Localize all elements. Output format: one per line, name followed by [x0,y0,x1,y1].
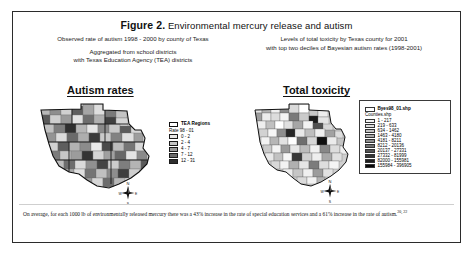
left-subtitle-line2: Aggregated from school districts [25,48,241,56]
caption-divider [19,204,454,205]
legend-swatch-rate-4-7 [169,147,178,152]
right-subtitle-line1: Levels of total toxicity by Texas county… [237,35,451,44]
svg-text:W: W [321,190,325,194]
svg-text:W: W [119,192,123,196]
svg-text:E: E [337,190,340,194]
legend-label-rate-4-7: 4 - 7 [181,147,190,152]
figure-frame: Figure 2. Environmental mercury release … [12,11,461,243]
figure-title-text: Environmental mercury release and autism [168,20,353,31]
legend-swatch-rate-7-12 [169,153,178,158]
figure-caption: On average, for each 1000 lb of environm… [23,208,451,218]
legend-label-counties-layer: Counties.shp [365,113,451,118]
left-subtitle-line3: with Texas Education Agency (TEA) distri… [25,56,241,64]
legend-swatch-tox-10 [365,164,375,169]
legend-row-tea-regions: TEA Regions [169,122,235,128]
caption-text: On average, for each 1000 lb of environm… [23,211,397,217]
legend-swatch-rate-2-4 [169,141,178,146]
left-panel-subtitle: Observed rate of autism 1998 - 2000 by c… [25,35,241,64]
panel-autism-rates: Autism rates [21,84,239,202]
texas-choropleth-toxicity [241,100,359,190]
figure-title: Figure 2. Environmental mercury release … [13,19,460,31]
legend-swatch-rate-0-2 [169,134,178,139]
legend-row-rate-class: 0 - 2 [169,134,235,140]
legend-autism-rates: TEA Regions Rate 98 - 01 0 - 2 2 - 4 4 -… [169,122,235,165]
legend-swatch-tox-4 [365,134,375,139]
compass-rose-right: N W E S [319,178,341,204]
svg-text:N: N [127,181,130,186]
right-subtitle-line2: with top two deciles of Bayesian autism … [237,44,451,53]
legend-swatch-tox-2 [365,124,375,129]
legend-label-tea-regions: TEA Regions [181,122,210,127]
panel-total-toxicity: Total toxicity [241,84,453,202]
legend-total-toxicity: Byes98_01.shp Counties.shp 1 - 217 219 -… [361,104,451,169]
legend-row-rate-class: 12 - 31 [169,159,235,165]
legend-row-rate-class: 4 - 7 [169,146,235,152]
legend-row-toxicity-class: 155984 - 396905 [365,164,451,169]
legend-label-rate-12-31: 12 - 31 [181,159,195,164]
legend-label-rate: Rate 98 - 01 [169,129,235,134]
left-subtitle-line1: Observed rate of autism 1998 - 2000 by c… [25,35,241,43]
right-panel-subtitle: Levels of total toxicity by Texas county… [237,35,451,52]
legend-swatch-tox-9 [365,159,375,164]
panel-heading-toxicity: Total toxicity [283,84,350,96]
legend-swatch-tox-1 [365,119,375,124]
panel-heading-autism: Autism rates [67,84,134,96]
caption-references: 20, 22 [397,209,407,214]
map-texas-total-toxicity [241,100,359,190]
legend-swatch-tox-8 [365,154,375,159]
map-texas-autism-rates [23,100,163,192]
compass-icon: N W E S [319,178,341,204]
svg-text:N: N [329,179,332,184]
compass-icon: N W E S [117,180,139,206]
legend-label-tox-10: 155984 - 396905 [378,164,412,169]
legend-swatch-rate-12-31 [169,159,178,164]
legend-row-rate-class: 2 - 4 [169,140,235,146]
legend-label-rate-2-4: 2 - 4 [181,141,190,146]
legend-swatch-tea-regions [169,122,178,127]
legend-label-rate-7-12: 7 - 12 [181,153,193,158]
texas-choropleth-autism [23,100,163,192]
legend-row-rate-class: 7 - 12 [169,153,235,159]
figure-label: Figure 2. [120,19,165,31]
svg-text:E: E [135,192,138,196]
legend-swatch-tox-5 [365,139,375,144]
legend-label-rate-0-2: 0 - 2 [181,135,190,140]
compass-rose-left: N W E S [117,180,139,206]
legend-swatch-tox-3 [365,129,375,134]
legend-swatch-tox-7 [365,149,375,154]
legend-swatch-tox-6 [365,144,375,149]
